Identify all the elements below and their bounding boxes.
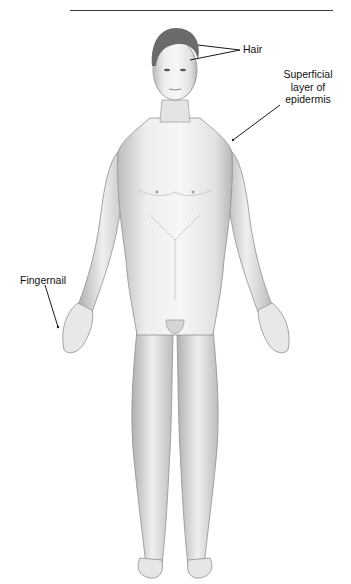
label-hair: Hair <box>243 43 262 56</box>
neck <box>160 100 190 122</box>
label-fingernail: Fingernail <box>20 274 66 287</box>
label-line: Superficial <box>268 68 348 81</box>
label-line: epidermis <box>268 93 348 106</box>
label-line: layer of <box>268 81 348 94</box>
torso <box>118 118 233 335</box>
label-superficial-epidermis: Superficial layer of epidermis <box>268 68 348 106</box>
legs <box>132 330 218 578</box>
